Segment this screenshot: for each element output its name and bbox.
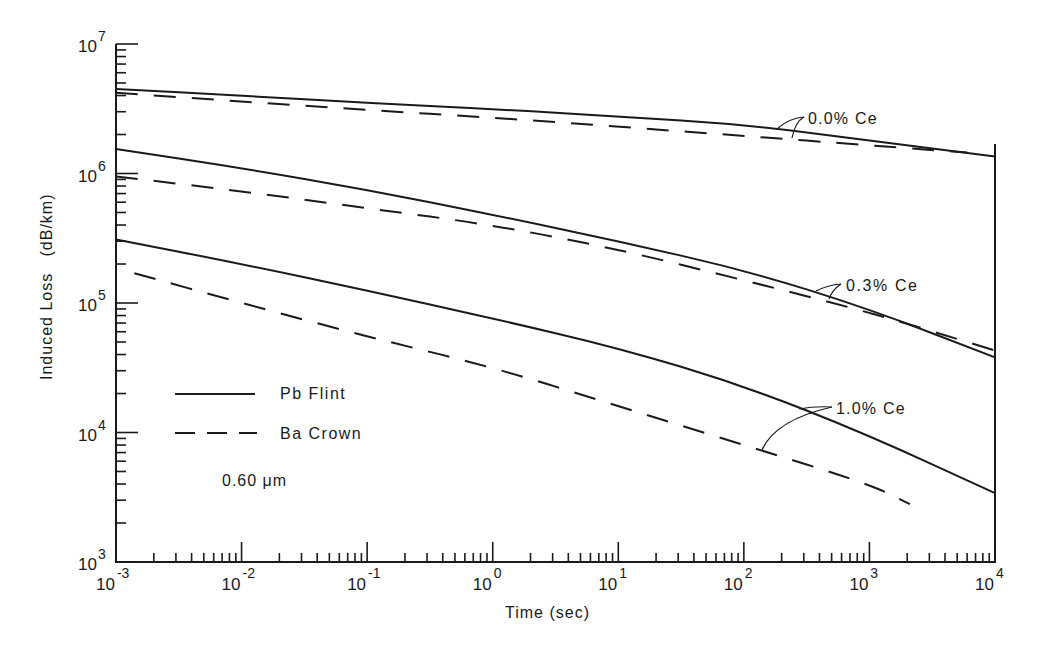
x-tick-exponent: 4: [996, 565, 1004, 581]
x-axis-label: Time (sec): [505, 604, 590, 621]
curve-ba-crown-1-0-ce: [134, 273, 910, 504]
x-tick-exponent: 3: [870, 565, 878, 581]
y-tick-label: 104: [78, 417, 106, 445]
x-tick-exponent: -3: [117, 565, 130, 581]
x-tick-label: 100: [473, 565, 502, 594]
x-tick-label: 101: [598, 565, 627, 594]
y-tick-exponent: 3: [98, 546, 106, 562]
x-tick-exponent: 1: [619, 565, 627, 581]
curve-ba-crown-0-3-ce: [116, 176, 995, 350]
legend-label-ba-crown: Ba Crown: [280, 425, 362, 442]
legend-label-pb-flint: Pb Flint: [280, 385, 346, 402]
y-tick-labels: 103104105106107: [78, 28, 106, 574]
y-tick-label: 107: [78, 28, 106, 56]
arrow-icon: [792, 117, 804, 138]
x-tick-label: 10-1: [347, 565, 381, 594]
label-0pct-ce-text: 0.0% Ce: [808, 110, 878, 127]
y-tick-label: 103: [78, 546, 106, 574]
y-tick-exponent: 4: [98, 417, 106, 433]
y-axis-label: Induced Loss (dB/km): [38, 193, 55, 380]
x-tick-exponent: 2: [745, 565, 753, 581]
label-03pct-ce: 0.3% Ce: [816, 277, 919, 299]
arrow-icon: [778, 117, 804, 128]
arrow-icon: [762, 407, 832, 450]
x-tick-label: 10-3: [96, 565, 130, 594]
x-tick-label: 103: [849, 565, 878, 594]
x-tick-label: 10-2: [222, 565, 256, 594]
label-03pct-ce-text: 0.3% Ce: [846, 277, 919, 294]
x-tick-labels: 10-310-210-1100101102103104: [96, 565, 1004, 594]
x-tick-exponent: -1: [368, 565, 381, 581]
wavelength-annotation: 0.60 μm: [222, 472, 287, 489]
y-tick-label: 106: [78, 158, 106, 186]
x-tick-exponent: 0: [494, 565, 502, 581]
curve-pb-flint-0-3-ce: [116, 149, 995, 358]
y-tick-exponent: 5: [98, 287, 106, 303]
data-curves: [116, 89, 995, 504]
x-tick-label: 104: [975, 565, 1004, 594]
chart: 10-310-210-1100101102103104 103104105106…: [0, 0, 1049, 654]
y-tick-exponent: 6: [98, 158, 106, 174]
legend: Pb Flint Ba Crown: [175, 385, 362, 442]
y-tick-exponent: 7: [98, 28, 106, 44]
y-tick-label: 105: [78, 287, 106, 315]
x-tick-label: 102: [724, 565, 753, 594]
label-1pct-ce-text: 1.0% Ce: [836, 400, 906, 417]
label-0pct-ce: 0.0% Ce: [778, 110, 878, 138]
x-tick-exponent: -2: [242, 565, 255, 581]
